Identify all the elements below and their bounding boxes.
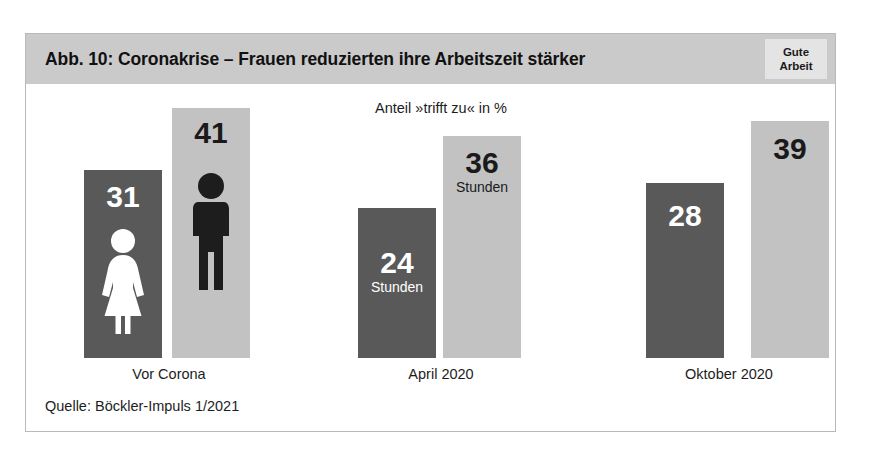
figure-title: Abb. 10: Coronakrise – Frauen reduzierte… <box>45 49 585 70</box>
bar-value-label: 28 <box>646 201 724 231</box>
group-label: Vor Corona <box>34 366 304 382</box>
brand-badge: Gute Arbeit <box>765 39 827 79</box>
bar-maenner-april-2020: 36 Stunden <box>443 136 521 358</box>
bar-group-vor-corona: 31 41 Vor Corona <box>34 84 304 431</box>
female-pictogram-icon <box>95 228 151 336</box>
bar-frauen-oktober-2020: 28 <box>646 183 724 358</box>
bar-frauen-vor-corona: 31 <box>84 170 162 358</box>
male-pictogram-icon <box>183 172 239 292</box>
bar-group-april-2020: 24 Stunden 36 Stunden April 2020 <box>316 84 566 431</box>
bar-maenner-oktober-2020: 39 <box>751 121 829 358</box>
bar-value-label: 31 <box>84 182 162 212</box>
figure-header: Abb. 10: Coronakrise – Frauen reduzierte… <box>26 34 835 84</box>
bar-value-label: 36 <box>443 148 521 178</box>
bar-unit-label: Stunden <box>358 280 436 294</box>
bar-value-label: 41 <box>172 118 250 148</box>
bar-unit-label: Stunden <box>443 180 521 194</box>
bar-group-oktober-2020: 28 39 Oktober 2020 <box>604 84 854 431</box>
brand-label-line2: Arbeit <box>779 59 812 73</box>
bar-value-label: 24 <box>358 248 436 278</box>
bar-frauen-april-2020: 24 Stunden <box>358 208 436 358</box>
plot-area: Anteil »trifft zu« in % 31 41 Vor Corona <box>26 84 835 431</box>
source-note: Quelle: Böckler-Impuls 1/2021 <box>45 398 239 414</box>
brand-label-line1: Gute <box>783 45 809 59</box>
bar-maenner-vor-corona: 41 <box>172 108 250 358</box>
group-label: April 2020 <box>316 366 566 382</box>
group-label: Oktober 2020 <box>604 366 854 382</box>
figure-container: Abb. 10: Coronakrise – Frauen reduzierte… <box>25 33 836 432</box>
bar-value-label: 39 <box>751 134 829 164</box>
